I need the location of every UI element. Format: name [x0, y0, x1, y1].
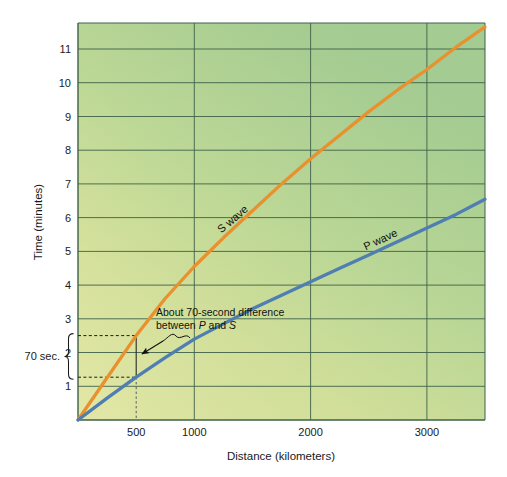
y-tick-1: 1 [65, 380, 71, 392]
x-axis-title: Distance (kilometers) [227, 450, 335, 462]
y-axis-tick-labels: 1 2 3 4 5 6 7 8 9 10 11 [59, 43, 71, 392]
y-tick-8: 8 [65, 144, 71, 156]
y-tick-6: 6 [65, 212, 71, 224]
y-tick-10: 10 [59, 77, 71, 89]
seventy-second-bracket: 70 sec. [25, 334, 74, 380]
y-tick-5: 5 [65, 245, 71, 257]
callout-line2-middle: and [206, 319, 229, 331]
y-tick-11: 11 [60, 43, 71, 55]
y-axis-title: Time (minutes) [32, 184, 44, 260]
callout-line2-p: P [199, 319, 206, 331]
x-tick-2000: 2000 [298, 426, 322, 438]
x-axis-tick-labels: 500 1000 2000 3000 [127, 426, 439, 438]
y-tick-7: 7 [65, 178, 71, 190]
x-tick-1000: 1000 [182, 426, 206, 438]
travel-time-chart: 1 2 3 4 5 6 7 8 9 10 11 500 1000 2000 30… [0, 0, 507, 477]
x-tick-3000: 3000 [415, 426, 439, 438]
x-tick-500: 500 [127, 426, 145, 438]
callout-line2-before: between [156, 319, 199, 331]
callout-line-1: About 70-second difference [156, 306, 284, 318]
y-tick-4: 4 [65, 279, 71, 291]
y-tick-3: 3 [65, 313, 71, 325]
callout-line-2: between P and S [156, 319, 236, 331]
callout-line2-s: S [229, 319, 236, 331]
figure-seismic-travel-time-graph: 1 2 3 4 5 6 7 8 9 10 11 500 1000 2000 30… [0, 0, 507, 477]
y-tick-9: 9 [65, 111, 71, 123]
seventy-second-bracket-label: 70 sec. [25, 350, 60, 362]
